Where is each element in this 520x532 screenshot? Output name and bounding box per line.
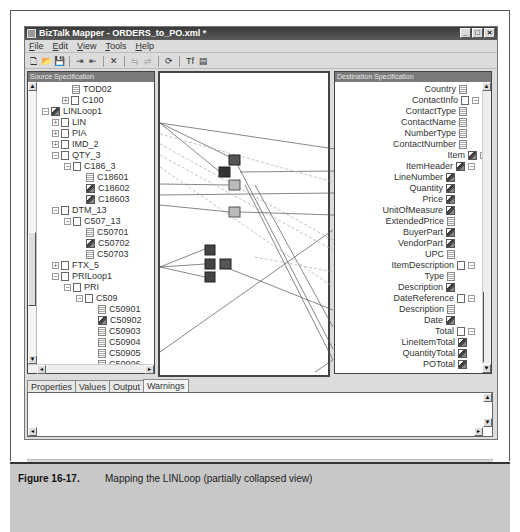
destination-tree-item[interactable]: Description — [398, 282, 455, 293]
open-folder-icon[interactable]: 📂 — [41, 56, 51, 66]
source-tree-item[interactable]: +LIN — [52, 117, 86, 128]
destination-tree-item[interactable]: LineItemTotal — [401, 337, 467, 348]
destination-tree-item[interactable]: BuyerPart — [403, 227, 455, 238]
warnings-output-area[interactable]: ▲ ▼ ◂ ▸ — [27, 392, 493, 437]
destination-tree-item[interactable]: QuantityTotal — [402, 348, 467, 359]
indent-icon[interactable]: ⇥ — [75, 56, 85, 66]
destination-tree-item[interactable]: DateReference− — [393, 293, 475, 304]
tab-values[interactable]: Values — [75, 380, 110, 392]
destination-tree-item[interactable]: UPC — [425, 249, 455, 260]
destination-tree-item[interactable]: ItemDescription− — [391, 260, 475, 271]
destination-tree-item[interactable]: ExtendedPrice — [385, 216, 455, 227]
destination-tree-item[interactable]: Description — [399, 304, 455, 315]
collapse-icon[interactable]: − — [64, 218, 71, 225]
collapse-icon[interactable]: − — [52, 152, 59, 159]
source-tree-item[interactable]: −C507_13 — [64, 216, 121, 227]
scroll-up-arrow[interactable]: ▲ — [482, 82, 491, 91]
destination-tree-item[interactable]: Country — [424, 84, 467, 95]
destination-vertical-scrollbar[interactable]: ▲ ▼ — [482, 82, 491, 364]
source-tree-item[interactable]: C50901 — [98, 304, 141, 315]
collapse-icon[interactable]: − — [472, 97, 479, 104]
expand-icon[interactable]: + — [62, 97, 69, 104]
outdent-icon[interactable]: ⇤ — [88, 56, 98, 66]
destination-tree-item[interactable]: ContactName — [401, 117, 467, 128]
scroll-up-arrow[interactable]: ▲ — [28, 82, 37, 91]
source-tree-item[interactable]: +IMD_2 — [52, 139, 99, 150]
menu-tools[interactable]: Tools — [105, 40, 126, 52]
scroll-right-arrow[interactable]: ▸ — [474, 427, 483, 436]
destination-tree-item[interactable]: VendorPart — [398, 238, 455, 249]
collapse-icon[interactable]: − — [52, 207, 59, 214]
source-tree-item[interactable]: C50903 — [98, 326, 141, 337]
tab-properties[interactable]: Properties — [27, 380, 76, 392]
source-tree-item[interactable]: TOD02 — [72, 84, 112, 95]
minimize-button[interactable]: _ — [460, 28, 471, 38]
scroll-down-arrow[interactable]: ▼ — [482, 364, 491, 373]
collapse-icon[interactable]: − — [468, 262, 475, 269]
source-tree-item[interactable]: C50905 — [98, 348, 141, 359]
destination-tree-item[interactable]: Quantity — [409, 183, 455, 194]
collapse-icon[interactable]: − — [468, 295, 475, 302]
tab-output[interactable]: Output — [109, 380, 144, 392]
source-tree-item[interactable]: C50904 — [98, 337, 141, 348]
source-tree-item[interactable]: C50701 — [86, 227, 129, 238]
save-icon[interactable]: 💾 — [54, 56, 64, 66]
source-tree-item[interactable]: −PRILoop1 — [52, 271, 112, 282]
scroll-left-arrow[interactable]: ◂ — [37, 365, 46, 374]
destination-tree-item[interactable]: Total− — [435, 326, 475, 337]
source-tree-item[interactable]: −LINLoop1 — [42, 106, 102, 117]
delete-icon[interactable]: ✕ — [109, 56, 119, 66]
scroll-down-arrow[interactable]: ▼ — [483, 418, 492, 427]
destination-tree-item[interactable]: POTotal — [423, 359, 467, 370]
source-tree-item[interactable]: C50902 — [98, 315, 142, 326]
menu-file[interactable]: File — [29, 40, 44, 52]
collapse-icon[interactable]: − — [64, 163, 71, 170]
scroll-right-arrow[interactable]: ▸ — [145, 365, 154, 374]
source-tree-item[interactable]: −QTY_3 — [52, 150, 101, 161]
collapse-icon[interactable]: − — [64, 284, 71, 291]
functoid-palette-icon[interactable]: Tf — [185, 56, 195, 66]
title-bar[interactable]: BizTalk Mapper - ORDERS_to_PO.xml * _ □ … — [25, 27, 497, 40]
collapse-icon[interactable]: − — [42, 108, 49, 115]
menu-view[interactable]: View — [77, 40, 96, 52]
tab-warnings[interactable]: Warnings — [143, 379, 189, 392]
destination-tree-item[interactable]: Price — [422, 194, 455, 205]
menu-help[interactable]: Help — [135, 40, 154, 52]
source-tree-item[interactable]: C18603 — [86, 194, 130, 205]
test-map-icon[interactable]: ⟳ — [164, 56, 174, 66]
destination-tree-item[interactable]: ContactInfo− — [412, 95, 479, 106]
destination-tree-item[interactable]: UnitOfMeasure — [382, 205, 455, 216]
source-tree-item[interactable]: −PRI — [64, 282, 99, 293]
destination-tree-item[interactable]: LineNumber — [394, 172, 455, 183]
destination-tree-item[interactable]: Type — [424, 271, 455, 282]
source-tree-item[interactable]: C50702 — [86, 238, 130, 249]
source-horizontal-scrollbar[interactable]: ◂ ▸ — [28, 364, 154, 373]
close-button[interactable]: × — [484, 28, 495, 38]
source-tree-item[interactable]: C18601 — [86, 172, 129, 183]
scroll-thumb[interactable] — [483, 292, 491, 362]
destination-tree-item[interactable]: Date — [424, 315, 455, 326]
destination-tree-item[interactable]: ContactNumber — [393, 139, 467, 150]
link-icon[interactable]: ⇋ — [130, 56, 140, 66]
collapse-icon[interactable]: − — [468, 328, 475, 335]
source-tree-item[interactable]: −C509 — [76, 293, 118, 304]
mapping-grid[interactable] — [158, 71, 330, 377]
maximize-button[interactable]: □ — [472, 28, 483, 38]
source-tree-item[interactable]: −C186_3 — [64, 161, 116, 172]
source-tree-item[interactable]: +PIA — [52, 128, 87, 139]
new-document-icon[interactable]: 🗋 — [28, 56, 38, 66]
scroll-thumb[interactable] — [28, 232, 36, 306]
expand-icon[interactable]: + — [52, 262, 59, 269]
menu-edit[interactable]: Edit — [53, 40, 69, 52]
collapse-icon[interactable]: − — [52, 273, 59, 280]
scroll-left-arrow[interactable]: ◂ — [28, 427, 37, 436]
unlink-icon[interactable]: ⇌ — [143, 56, 153, 66]
source-tree-item[interactable]: C50703 — [86, 249, 129, 260]
source-vertical-scrollbar[interactable]: ▲ ▼ — [28, 82, 37, 364]
destination-tree-item[interactable]: ContactType — [405, 106, 467, 117]
source-tree-item[interactable]: C18602 — [86, 183, 130, 194]
scroll-down-arrow[interactable]: ▼ — [28, 355, 37, 364]
destination-tree-item[interactable]: NumberType — [404, 128, 467, 139]
source-tree-item[interactable]: +FTX_5 — [52, 260, 99, 271]
expand-icon[interactable]: + — [52, 119, 59, 126]
